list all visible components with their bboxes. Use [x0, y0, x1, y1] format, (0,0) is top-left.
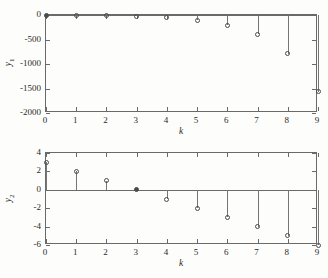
x-axis-tick [76, 239, 77, 243]
y-axis-tick-label: 2 [3, 166, 41, 175]
data-point-marker [134, 14, 139, 19]
stem-line [288, 190, 289, 236]
x-axis-tick-label: 0 [36, 116, 54, 125]
x-axis-tick [197, 239, 198, 243]
y-axis-tick-right [312, 171, 316, 172]
data-point-marker [195, 18, 200, 23]
y-axis-tick-label: -4 [3, 222, 41, 231]
stem-line [288, 15, 289, 54]
data-point-marker [195, 206, 200, 211]
y-axis-tick-right [312, 64, 316, 65]
data-point-marker [164, 15, 169, 20]
y-axis-title-y2: y2 [3, 195, 16, 203]
x-axis-tick-label: 6 [217, 116, 235, 125]
x-axis-tick [46, 107, 47, 111]
x-axis-tick [46, 239, 47, 243]
data-point-marker [225, 215, 230, 220]
x-axis-tick-label: 8 [278, 248, 296, 257]
y-axis-tick [46, 64, 50, 65]
y-axis-tick [46, 227, 50, 228]
data-point-marker [44, 160, 49, 165]
x-axis-tick-label: 4 [157, 248, 175, 257]
x-axis-tick-label: 5 [187, 116, 205, 125]
x-axis-tick-label: 3 [127, 116, 145, 125]
chart-panel-y1: y1 k 0-500-1000-1500-20000123456789 [0, 0, 328, 140]
x-axis-tick-label: 2 [96, 248, 114, 257]
y-axis-title-subscript: 2 [8, 195, 16, 199]
x-axis-tick-label: 1 [66, 248, 84, 257]
x-axis-tick [288, 239, 289, 243]
data-point-marker [74, 169, 79, 174]
data-point-marker [285, 51, 290, 56]
data-point-marker [134, 187, 139, 192]
plot-area-y2 [45, 152, 317, 244]
x-axis-tick-label: 7 [248, 248, 266, 257]
y-axis-tick-label: -1500 [3, 84, 41, 93]
x-axis-tick [288, 107, 289, 111]
y-axis-tick [46, 113, 50, 114]
data-point-marker [44, 13, 49, 18]
y-axis-tick [46, 40, 50, 41]
x-axis-tick [318, 107, 319, 111]
x-axis-tick [106, 239, 107, 243]
y-axis-tick [46, 190, 50, 191]
baseline-zero-line [46, 190, 316, 191]
x-axis-tick-label: 9 [308, 116, 326, 125]
x-axis-tick [167, 107, 168, 111]
stem-line [258, 190, 259, 227]
y-axis-tick-label: -500 [3, 35, 41, 44]
x-axis-tick [197, 107, 198, 111]
stem-line [227, 190, 228, 218]
x-axis-tick [106, 107, 107, 111]
y-axis-tick [46, 89, 50, 90]
y-axis-tick-label: -1000 [3, 59, 41, 68]
y-axis-tick-right [312, 190, 316, 191]
x-axis-tick-label: 8 [278, 116, 296, 125]
x-axis-tick-label: 6 [217, 248, 235, 257]
x-axis-tick [227, 107, 228, 111]
plot-area-y1 [45, 14, 317, 112]
data-point-marker [255, 224, 260, 229]
x-axis-tick-top [227, 153, 228, 157]
x-axis-tick-top [46, 153, 47, 157]
chart-panel-y2: y2 k 420-2-4-60123456789 [0, 140, 328, 278]
y-axis-tick-right [312, 227, 316, 228]
x-axis-tick-top [197, 153, 198, 157]
y-axis-tick-right [312, 40, 316, 41]
x-axis-tick [227, 239, 228, 243]
x-axis-title-y1: k [161, 126, 201, 136]
x-axis-tick-top [318, 153, 319, 157]
x-axis-tick-top [288, 153, 289, 157]
x-axis-tick-top [137, 153, 138, 157]
y-axis-tick-right [312, 208, 316, 209]
baseline-zero-line [46, 15, 316, 16]
y-axis-tick-label: 0 [3, 185, 41, 194]
y-axis-tick-label: -2 [3, 203, 41, 212]
x-axis-tick [76, 107, 77, 111]
x-axis-tick-label: 2 [96, 116, 114, 125]
x-axis-tick-label: 9 [308, 248, 326, 257]
stem-line [76, 171, 77, 189]
figure-canvas: y1 k 0-500-1000-1500-20000123456789 y2 k… [0, 0, 328, 278]
y-axis-tick-right [312, 15, 316, 16]
x-axis-tick [137, 107, 138, 111]
y-axis-tick-label: 0 [3, 10, 41, 19]
data-point-marker [164, 197, 169, 202]
x-axis-tick-top [167, 153, 168, 157]
y-axis-tick [46, 245, 50, 246]
stem-line [318, 15, 319, 92]
data-point-marker [74, 13, 79, 18]
y-axis-tick [46, 208, 50, 209]
stem-line [46, 162, 47, 190]
y-axis-tick-right [312, 153, 316, 154]
x-axis-tick-label: 5 [187, 248, 205, 257]
y-axis-tick-right [312, 113, 316, 114]
x-axis-tick [167, 239, 168, 243]
y-axis-tick-label: 4 [3, 148, 41, 157]
data-point-marker [104, 178, 109, 183]
x-axis-title-y2: k [161, 258, 201, 268]
x-axis-tick [258, 107, 259, 111]
data-point-marker [104, 13, 109, 18]
data-point-marker [225, 23, 230, 28]
x-axis-tick-label: 4 [157, 116, 175, 125]
